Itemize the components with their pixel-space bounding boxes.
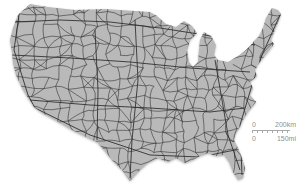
scale-mi-zero: 0	[252, 135, 256, 143]
map-canvas: 0 200km 0 150mi	[0, 0, 308, 185]
scale-km-label: 200km	[275, 121, 296, 129]
scale-mi-row: 0 150mi	[252, 135, 296, 143]
scale-ruler	[252, 130, 290, 134]
scale-mi-label: 150mi	[277, 135, 296, 143]
scale-km-row: 0 200km	[252, 121, 296, 129]
map-scale-bar: 0 200km 0 150mi	[252, 121, 298, 143]
scale-km-zero: 0	[252, 121, 256, 129]
us-road-map	[0, 0, 308, 185]
